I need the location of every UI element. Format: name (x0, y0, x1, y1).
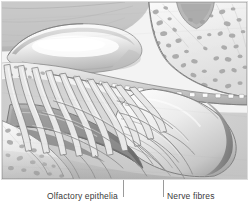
leader-line-olfactory-epithelia (123, 180, 124, 197)
caption-area: Olfactory epithelia Nerve fibres (0, 180, 249, 210)
olfactory-illustration (2, 2, 247, 179)
illustration-panel (1, 1, 248, 180)
leader-line-nerve-fibres (163, 180, 164, 197)
label-nerve-fibres: Nerve fibres (167, 191, 215, 201)
label-olfactory-epithelia: Olfactory epithelia (47, 191, 118, 201)
olfactory-anatomy-figure: Olfactory epithelia Nerve fibres (0, 0, 249, 210)
